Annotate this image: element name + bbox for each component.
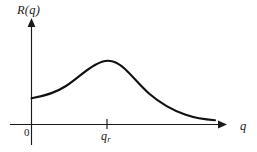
resonance-label-subscript: r (107, 134, 110, 144)
origin-label: 0 (24, 127, 30, 138)
x-axis-arrowhead (218, 121, 227, 129)
response-curve-path (32, 61, 216, 120)
x-axis-label: q (240, 120, 246, 133)
y-axis-arrowhead (28, 18, 36, 27)
resonance-tick-label: qr (101, 130, 111, 144)
response-curve-plot (0, 0, 257, 152)
figure-container: R(q) q 0 qr (0, 0, 257, 152)
y-axis-label: R(q) (17, 4, 40, 17)
